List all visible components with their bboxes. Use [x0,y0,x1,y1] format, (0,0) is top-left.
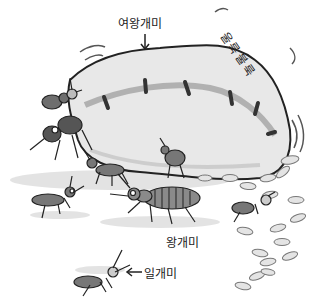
ant-colony-illustration: 여왕개미 울룩불룩 왕개미 일개미 [0,0,313,306]
queen-ant-label: 여왕개미 [118,14,162,31]
worker-ant-label: 일개미 [144,264,177,281]
worker-ant-right [232,192,275,222]
illustration-drawing [0,0,313,306]
king-ant-label: 왕개미 [166,233,199,250]
ground-shading [10,170,230,274]
